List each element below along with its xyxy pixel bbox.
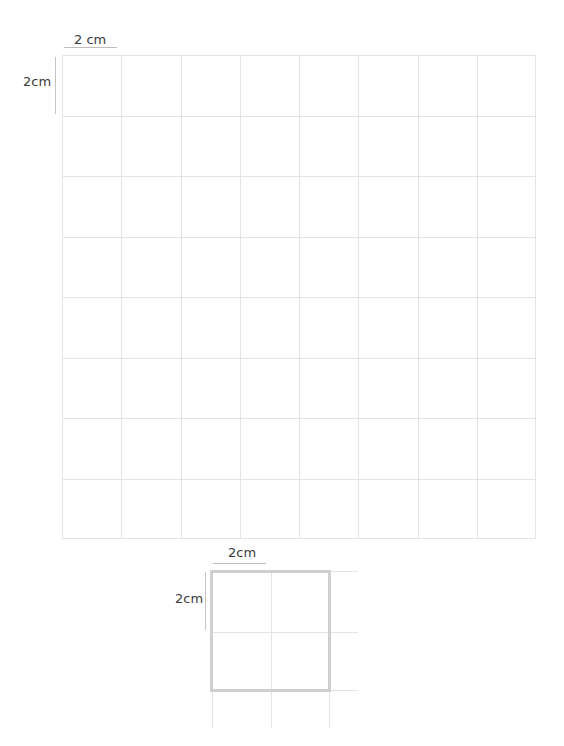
- small-square-outline: [210, 570, 331, 692]
- small-square-figure: [0, 0, 564, 746]
